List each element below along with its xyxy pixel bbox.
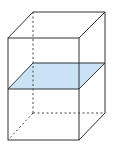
edge-top-left-depth [8, 12, 33, 38]
prism-diagram [0, 0, 114, 152]
edge-bottom-right-depth [79, 113, 105, 140]
cross-section-plane [8, 63, 105, 89]
edge-top-right-depth [79, 12, 105, 38]
hidden-edge-bottom-left-depth [8, 113, 33, 140]
